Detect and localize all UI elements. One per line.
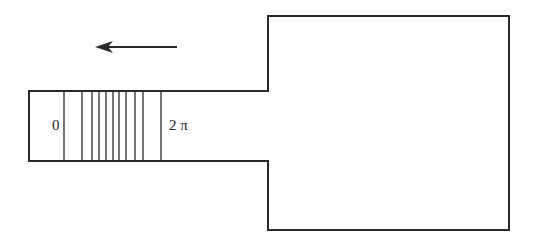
phase-zero-label: 0 — [52, 118, 60, 133]
phase-lines — [64, 91, 161, 161]
diagram-canvas — [0, 0, 539, 244]
phase-two-pi-label: 2 π — [169, 118, 188, 133]
left-arrow-icon — [95, 41, 177, 53]
